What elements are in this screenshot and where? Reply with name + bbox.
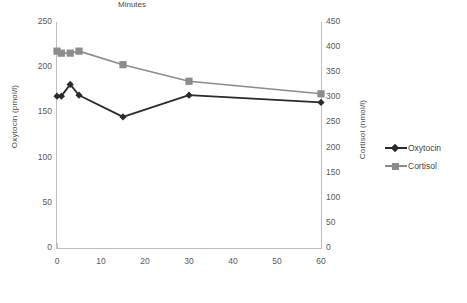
data-point-marker[interactable]	[119, 113, 126, 120]
left-axis-title: Oxytocin (pmol/l)	[10, 77, 19, 157]
data-point-marker[interactable]	[185, 92, 192, 99]
diamond-marker-icon	[385, 142, 407, 154]
data-point-marker[interactable]	[185, 78, 192, 85]
square-marker-icon	[385, 160, 407, 172]
legend-item-oxytocin[interactable]: Oxytocin	[385, 139, 441, 157]
data-point-marker[interactable]	[317, 99, 324, 106]
data-point-marker[interactable]	[58, 50, 65, 57]
legend-item-cortisol[interactable]: Cortisol	[385, 157, 441, 175]
data-point-marker[interactable]	[317, 90, 324, 97]
data-point-marker[interactable]	[119, 61, 126, 68]
chart-legend: Oxytocin Cortisol	[385, 139, 441, 175]
chart-container: 050100150200250 050100150200250300350400…	[0, 0, 467, 303]
data-point-marker[interactable]	[75, 48, 82, 55]
legend-label-oxytocin: Oxytocin	[408, 143, 441, 153]
series-line-cortisol	[57, 51, 321, 94]
legend-label-cortisol: Cortisol	[408, 161, 437, 171]
data-point-marker[interactable]	[67, 50, 74, 57]
right-axis-title: Cortisol (nmol/l)	[358, 90, 367, 170]
